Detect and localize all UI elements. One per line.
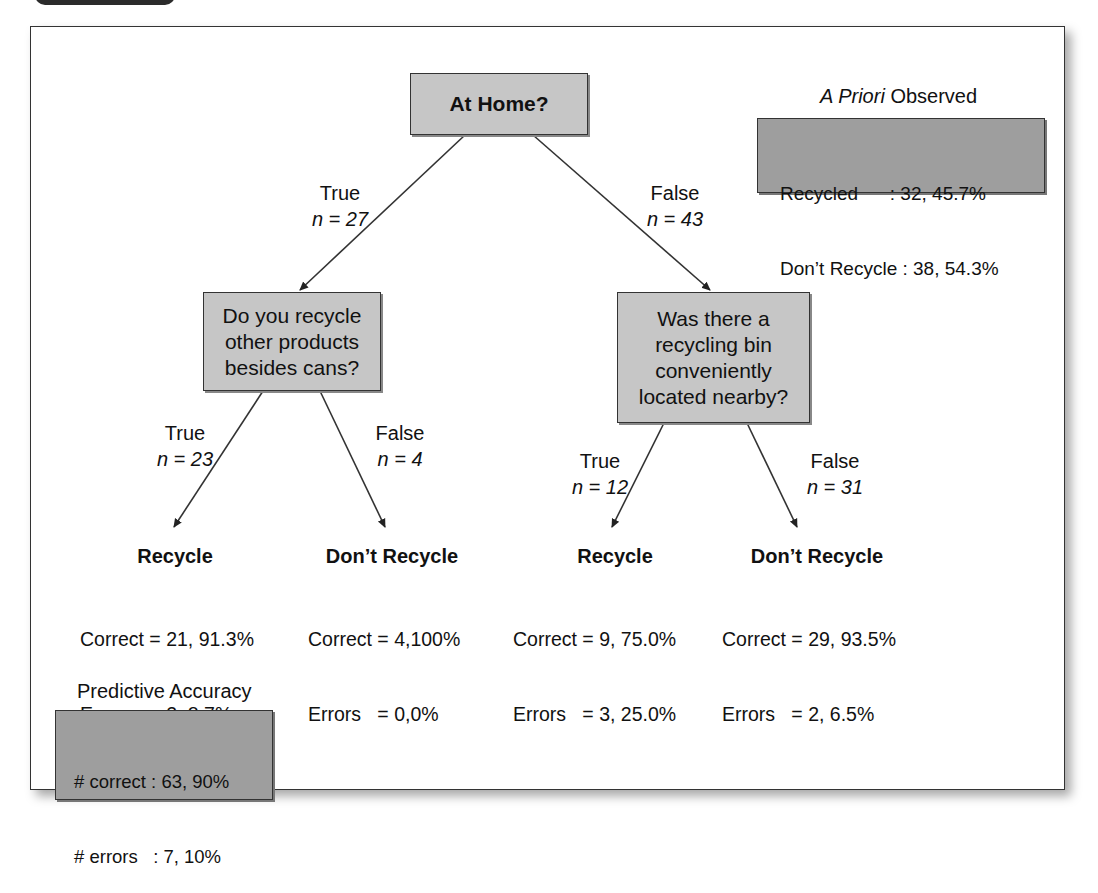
leaf-1-title: Recycle [120, 545, 230, 568]
leaf-2-stats: Correct = 4,100% Errors = 0,0% [308, 577, 460, 752]
right-question: Was there a recycling bin conveniently l… [628, 306, 799, 410]
a-priori-title: A Priori Observed [820, 85, 977, 108]
root-node: At Home? [410, 73, 588, 135]
right-false-label: False n = 31 [790, 448, 880, 500]
left-false-label: False n = 4 [355, 420, 445, 472]
predictive-accuracy-box: # correct : 63, 90% # errors : 7, 10% Ta… [55, 710, 273, 800]
leaf-4-title: Don’t Recycle [737, 545, 897, 568]
right-decision-node: Was there a recycling bin conveniently l… [617, 292, 810, 423]
predictive-accuracy-title: Predictive Accuracy [77, 680, 252, 703]
a-priori-box: Recycled : 32, 45.7% Don’t Recycle : 38,… [757, 118, 1045, 193]
left-decision-node: Do you recycle other products besides ca… [203, 292, 381, 391]
left-true-label: True n = 23 [140, 420, 230, 472]
root-question: At Home? [449, 91, 548, 117]
leaf-2-title: Don’t Recycle [312, 545, 472, 568]
root-false-label: False n = 43 [630, 180, 720, 232]
leaf-3-title: Recycle [560, 545, 670, 568]
leaf-4-stats: Correct = 29, 93.5% Errors = 2, 6.5% [722, 577, 896, 752]
figure-label-badge [35, 0, 175, 5]
leaf-3-stats: Correct = 9, 75.0% Errors = 3, 25.0% [513, 577, 676, 752]
right-true-label: True n = 12 [555, 448, 645, 500]
root-true-label: True n = 27 [295, 180, 385, 232]
left-question: Do you recycle other products besides ca… [212, 303, 372, 381]
